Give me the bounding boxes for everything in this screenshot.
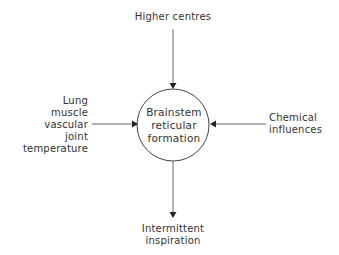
label-line: Intermittent [123, 223, 223, 235]
label-line: temperature [6, 143, 88, 155]
label-peripheral-inputs: Lung muscle vascular joint temperature [6, 95, 88, 155]
label-line: influences [269, 124, 339, 136]
arrowhead-down-icon [170, 212, 177, 218]
label-line: reticular [138, 119, 210, 132]
arrowhead-left-icon [210, 121, 216, 128]
label-line: Lung [6, 95, 88, 107]
arrow-to-intermittent-inspiration [170, 161, 177, 218]
label-higher-centres: Higher centres [123, 11, 223, 23]
label-line: muscle [6, 107, 88, 119]
label-line: Chemical [269, 112, 339, 124]
arrowhead-down-icon [170, 83, 177, 89]
arrow-from-peripheral-receptors [92, 121, 138, 128]
label-line: Brainstem [138, 106, 210, 119]
label-brainstem-reticular-formation: Brainstem reticular formation [138, 106, 210, 145]
label-line: joint [6, 131, 88, 143]
arrow-from-higher-centres [170, 29, 177, 89]
label-intermittent-inspiration: Intermittent inspiration [123, 223, 223, 247]
diagram-canvas: Higher centres Lung muscle vascular join… [0, 0, 339, 255]
label-chemical-influences: Chemical influences [269, 112, 339, 136]
arrow-from-chemical-influences [210, 121, 266, 128]
label-line: inspiration [123, 235, 223, 247]
label-line: vascular [6, 119, 88, 131]
label-line: formation [138, 132, 210, 145]
label-line: Higher centres [123, 11, 223, 23]
